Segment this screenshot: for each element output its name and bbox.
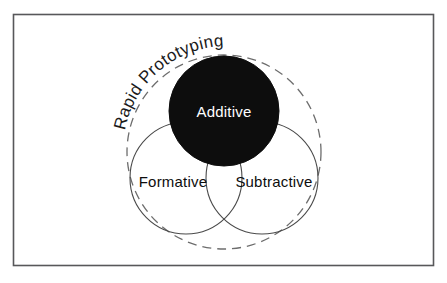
venn-diagram-svg: Rapid Prototyping Additive Formative Sub… — [0, 0, 447, 283]
set-label-formative: Formative — [139, 173, 207, 190]
figure-root: Rapid Prototyping Additive Formative Sub… — [0, 0, 447, 283]
set-label-subtractive: Subtractive — [235, 173, 312, 190]
set-label-additive: Additive — [197, 103, 252, 120]
